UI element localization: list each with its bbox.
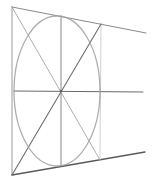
center-point <box>60 90 62 92</box>
perspective-sketch <box>0 0 154 186</box>
diagonal-bl-tr <box>12 24 101 175</box>
horizontal-axis <box>14 91 143 92</box>
diagonal-tl-br <box>12 7 100 160</box>
